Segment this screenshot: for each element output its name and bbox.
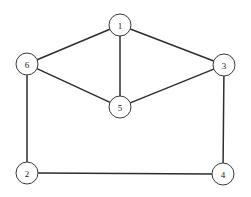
graph-node-4[interactable]: 4 xyxy=(212,163,234,185)
graph-node-label-6: 6 xyxy=(25,60,30,70)
graph-node-5[interactable]: 5 xyxy=(109,96,131,118)
graph-node-label-2: 2 xyxy=(25,169,30,179)
graph-edge-1-6 xyxy=(37,29,110,60)
node-layer: 123456 xyxy=(16,14,235,185)
graph-edge-5-3 xyxy=(130,69,214,103)
graph-diagram-canvas: 123456 xyxy=(0,0,251,197)
graph-edge-2-4 xyxy=(38,173,212,174)
graph-node-label-5: 5 xyxy=(118,103,123,113)
graph-node-label-3: 3 xyxy=(222,61,227,71)
graph-node-2[interactable]: 2 xyxy=(16,162,38,184)
graph-node-6[interactable]: 6 xyxy=(16,53,38,75)
graph-node-1[interactable]: 1 xyxy=(109,14,131,36)
graph-svg: 123456 xyxy=(0,0,251,197)
graph-node-label-4: 4 xyxy=(221,170,226,180)
graph-node-label-1: 1 xyxy=(118,21,123,31)
graph-edge-6-5 xyxy=(37,69,110,103)
graph-node-3[interactable]: 3 xyxy=(213,54,235,76)
graph-edge-1-3 xyxy=(130,29,213,61)
graph-edge-3-4 xyxy=(223,76,224,163)
